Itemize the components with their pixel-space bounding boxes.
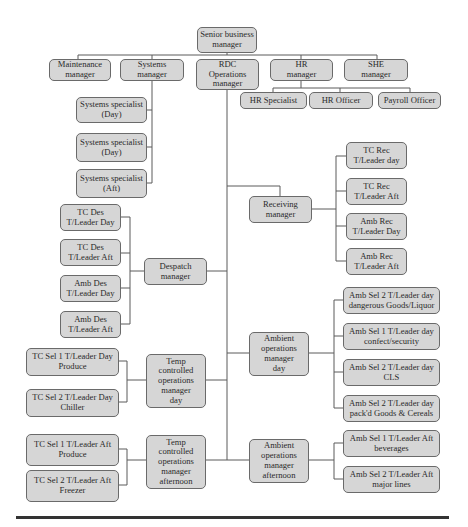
node-payroll-officer: Payroll Officer <box>378 92 441 109</box>
node-amb-rec-leader-aft: Amb Rec T/Leader Aft <box>346 248 407 275</box>
node-hr-officer: HR Officer <box>309 92 373 109</box>
node-tc-sel2-leader-aft-freezer: TC Sel 2 T/Leader Aft Freezer <box>26 470 119 502</box>
node-rdc-operations-manager: RDC Operations manager <box>196 59 259 90</box>
node-amb-des-leader-aft: Amb Des T/Leader Aft <box>60 311 121 338</box>
node-systems-specialist-day-2: Systems specialist (Day) <box>76 133 147 162</box>
node-systems-manager: Systems manager <box>120 59 184 81</box>
node-tc-des-leader-aft: TC Des T/Leader Aft <box>60 239 121 266</box>
node-hr-manager: HR manager <box>270 59 333 81</box>
node-despatch-manager: Despatch manager <box>144 258 207 285</box>
node-tc-sel1-leader-day-produce: TC Sel 1 T/Leader Day Produce <box>26 348 119 376</box>
node-systems-specialist-day-1: Systems specialist (Day) <box>76 97 147 123</box>
node-amb-sel1-leader-aft-beverages: Amb Sel 1 T/Leader Aft beverages <box>343 430 440 457</box>
node-tc-rec-leader-aft: TC Rec T/Leader Aft <box>346 178 407 205</box>
node-senior-business-manager: Senior business manager <box>197 27 257 53</box>
node-tc-rec-leader-day: TC Rec T/Leader day <box>346 142 407 169</box>
bottom-rule <box>16 516 449 519</box>
node-amb-sel2-leader-day-dangerous-goods: Amb Sel 2 T/Leader day dangerous Goods/L… <box>343 287 440 314</box>
node-tc-sel2-leader-day-chiller: TC Sel 2 T/Leader Day Chiller <box>26 389 119 417</box>
node-amb-sel1-leader-day-confect: Amb Sel 1 T/Leader day confect/security <box>343 323 440 350</box>
node-temp-controlled-operations-manager-afternoon: Temp controlled operations manager after… <box>146 435 206 489</box>
node-tc-sel1-leader-aft-produce: TC Sel 1 T/Leader Aft Produce <box>26 434 119 466</box>
node-tc-des-leader-day: TC Des T/Leader Day <box>60 204 121 231</box>
node-systems-specialist-aft: Systems specialist (Aft) <box>76 169 147 198</box>
node-temp-controlled-operations-manager-day: Temp controlled operations manager day <box>146 354 206 408</box>
node-she-manager: SHE manager <box>344 59 408 81</box>
node-ambient-operations-manager-day: Ambient operations manager day <box>249 332 309 376</box>
node-amb-des-leader-day: Amb Des T/Leader Day <box>60 275 121 302</box>
node-amb-sel2-leader-day-packd-goods: Amb Sel 2 T/Leader day pack'd Goods & Ce… <box>343 395 440 422</box>
node-amb-sel2-leader-day-cls: Amb Sel 2 T/Leader day CLS <box>343 359 440 386</box>
node-ambient-operations-manager-afternoon: Ambient operations manager afternoon <box>249 439 309 483</box>
node-maintenance-manager: Maintenance manager <box>49 59 111 81</box>
node-receiving-manager: Receiving manager <box>249 196 312 223</box>
node-hr-specialist: HR Specialist <box>240 92 307 109</box>
node-amb-rec-leader-day: Amb Rec T/Leader Day <box>346 213 407 240</box>
node-amb-sel2-leader-aft-major-lines: Amb Sel 2 T/Leader Aft major lines <box>343 466 440 493</box>
